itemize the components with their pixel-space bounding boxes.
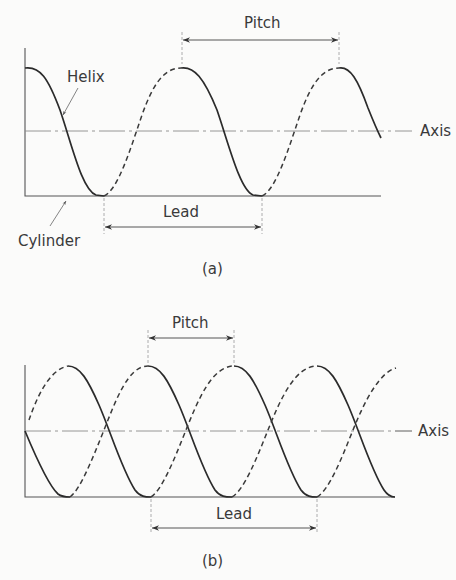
helix-front-segment (234, 366, 317, 497)
helix-front-segment (339, 68, 381, 138)
helix-back-segment (262, 68, 339, 196)
lead-label-b: Lead (216, 505, 252, 523)
helix-back-segment (317, 368, 396, 497)
helix-front-segment (148, 366, 232, 497)
figure-b: Pitch Lead Axis (b) (25, 314, 449, 570)
cylinder-label: Cylinder (18, 232, 81, 250)
helix-front-segment (25, 68, 104, 196)
helix-front-segment (68, 366, 151, 497)
lead-label-a: Lead (163, 203, 199, 221)
cylinder-leader-arrow (50, 201, 66, 226)
helix-leader-arrow (63, 88, 78, 115)
helix-back-segment (29, 366, 68, 420)
helix-label: Helix (67, 68, 105, 86)
helix-back-segment (232, 366, 317, 497)
axis-label-b: Axis (418, 422, 449, 440)
helix-front-segment (317, 366, 395, 497)
pitch-label-b: Pitch (172, 314, 209, 332)
caption-a: (a) (202, 260, 223, 278)
pitch-label-a: Pitch (244, 14, 281, 32)
helix-back-segment (151, 366, 234, 497)
helix-diagram: Pitch Lead Helix Cylinder Axis (a) (0, 0, 456, 580)
helix-front-segment (181, 68, 262, 196)
caption-b: (b) (202, 552, 223, 570)
helix-back-segment (104, 68, 181, 196)
helix-front-segment (25, 431, 70, 497)
figure-a: Pitch Lead Helix Cylinder Axis (a) (18, 14, 451, 278)
axis-label-a: Axis (420, 122, 451, 140)
